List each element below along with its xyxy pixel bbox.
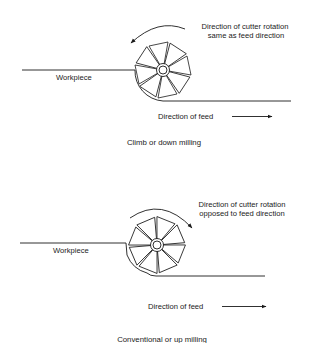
caption-climb: Climb or down milling <box>127 138 201 147</box>
machined-surface-line <box>147 273 265 276</box>
feed-label: Direction of feed <box>148 302 203 311</box>
rotation-note-line1: Direction of cutter rotation <box>202 22 289 31</box>
workpiece-label: Workpiece <box>56 73 92 82</box>
milling-diagrams: Workpiece Direction of cutter rotation s… <box>0 0 324 343</box>
climb-milling-diagram: Workpiece Direction of cutter rotation s… <box>22 22 291 147</box>
workpiece-label: Workpiece <box>53 246 89 255</box>
caption-conventional: Conventional or up milling <box>117 335 207 343</box>
rotation-arrow-ccw-icon <box>131 26 185 43</box>
feed-label: Direction of feed <box>158 112 213 121</box>
rotation-note-line1: Direction of cutter rotation <box>199 200 286 209</box>
conventional-milling-diagram: Workpiece Direction of cutter rotation o… <box>20 200 285 343</box>
rotation-note-line2: same as feed direction <box>208 31 284 40</box>
rotation-note-line2: opposed to feed direction <box>199 209 284 218</box>
